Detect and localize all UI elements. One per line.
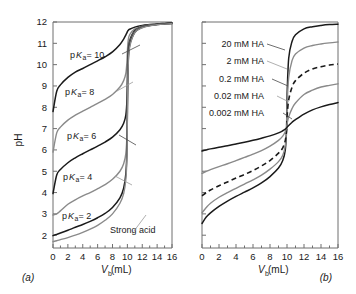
y-tick-label: 3 xyxy=(42,208,47,219)
x-tick-label: 14 xyxy=(316,251,327,262)
annotation-panel-a-4: pKa = 2 xyxy=(62,211,91,222)
x-tick-label: 10 xyxy=(122,251,133,262)
annotation-suffix: = 2 xyxy=(79,211,92,221)
y-tick-label: 9 xyxy=(42,80,47,91)
x-tick-label: 4 xyxy=(80,251,85,262)
annotation-panel-b-3: 0.02 mM HA xyxy=(214,91,264,101)
y-tick-label: 7 xyxy=(42,123,47,134)
panel-a-annotations: pKa = 10pKa = 8pKa = 6pKa = 4pKa = 2Stro… xyxy=(62,50,156,235)
titration-figure: 23456789101112 0246810121416 pH V b (mL)… xyxy=(0,0,356,294)
annotation-suffix: = 4 xyxy=(80,172,93,182)
x-tick-label: 4 xyxy=(233,251,238,262)
x-axis-title-b-unit: (mL) xyxy=(268,264,289,275)
x-tick-label: 10 xyxy=(282,251,293,262)
annotation-prefix: p xyxy=(63,172,68,182)
panel-a-y-ticklabels: 23456789101112 xyxy=(36,16,47,240)
y-tick-label: 10 xyxy=(36,59,47,70)
x-axis-title-a: V b (mL) xyxy=(101,264,132,277)
x-tick-label: 16 xyxy=(167,251,178,262)
x-tick-label: 2 xyxy=(216,251,221,262)
y-axis-title-a-text: pH xyxy=(13,134,24,147)
curve-pka-6 xyxy=(53,23,172,193)
leader-20mm xyxy=(267,44,285,50)
y-tick-label: 5 xyxy=(42,166,47,177)
panel-b: 0246810121416 V b (mL) (b) 20 mM HA2 mM … xyxy=(199,22,343,283)
leader-pka10 xyxy=(122,45,140,54)
x-tick-label: 12 xyxy=(137,251,148,262)
annotation-prefix: p xyxy=(65,87,70,97)
panel-b-annotations: 20 mM HA2 mM HA0.2 mM HA0.02 mM HA0.002 … xyxy=(209,39,264,118)
annotation-suffix: = 10 xyxy=(87,50,105,60)
y-tick-label: 2 xyxy=(42,230,47,241)
x-tick-label: 8 xyxy=(267,251,272,262)
panel-b-x-ticks xyxy=(202,244,338,248)
y-tick-label: 12 xyxy=(36,16,47,27)
x-tick-label: 14 xyxy=(152,251,163,262)
x-axis-title-b: V b (mL) xyxy=(258,264,289,277)
annotation-panel-a-5: Strong acid xyxy=(110,225,156,235)
annotation-panel-b-2: 0.2 mM HA xyxy=(219,74,264,84)
curve-pka-10 xyxy=(53,23,172,111)
curve-2-mm-ha xyxy=(202,42,338,213)
panel-a-label: (a) xyxy=(22,272,34,283)
panel-b-y-ticks xyxy=(202,22,206,235)
leader-pka4 xyxy=(115,176,132,185)
panel-b-x-ticklabels: 0246810121416 xyxy=(199,251,343,262)
annotation-prefix: p xyxy=(70,50,75,60)
annotation-panel-a-0: pKa = 10 xyxy=(70,50,104,61)
annotation-panel-b-4: 0.002 mM HA xyxy=(209,108,264,118)
y-tick-label: 6 xyxy=(42,144,47,155)
titration-chart-svg: 23456789101112 0246810121416 pH V b (mL)… xyxy=(0,0,356,294)
panel-b-curves xyxy=(202,24,338,223)
annotation-panel-b-1: 2 mM HA xyxy=(226,56,264,66)
x-tick-label: 6 xyxy=(250,251,255,262)
x-tick-label: 0 xyxy=(199,251,204,262)
annotation-panel-a-1: pKa = 8 xyxy=(65,87,94,98)
panel-a: 23456789101112 0246810121416 pH V b (mL)… xyxy=(13,16,177,283)
annotation-suffix: Strong acid xyxy=(110,225,156,235)
panel-b-frame xyxy=(202,22,338,248)
annotation-suffix: = 6 xyxy=(84,131,97,141)
y-tick-label: 8 xyxy=(42,102,47,113)
y-tick-label: 4 xyxy=(42,187,47,198)
panel-a-y-ticks xyxy=(53,22,57,235)
x-tick-label: 16 xyxy=(333,251,344,262)
annotation-prefix: p xyxy=(62,211,67,221)
annotation-panel-b-0: 20 mM HA xyxy=(221,39,264,49)
annotation-panel-a-3: pKa = 4 xyxy=(63,172,92,183)
x-tick-label: 6 xyxy=(95,251,100,262)
panel-a-x-ticks xyxy=(53,244,172,248)
x-tick-label: 2 xyxy=(65,251,70,262)
annotation-suffix: = 8 xyxy=(82,87,95,97)
x-axis-title-a-unit: (mL) xyxy=(111,264,132,275)
annotation-prefix: p xyxy=(67,131,72,141)
y-axis-title-a: pH xyxy=(13,134,24,147)
panel-a-x-ticklabels: 0246810121416 xyxy=(50,251,177,262)
x-tick-label: 12 xyxy=(299,251,310,262)
curve-20-mm-ha xyxy=(202,24,338,223)
panel-b-label: (b) xyxy=(320,272,332,283)
leader-pka8 xyxy=(117,82,133,91)
x-tick-label: 8 xyxy=(110,251,115,262)
leader-02mm xyxy=(272,79,288,86)
x-tick-label: 0 xyxy=(50,251,55,262)
y-tick-label: 11 xyxy=(37,38,47,49)
leader-2mm xyxy=(267,61,287,69)
annotation-panel-a-2: pKa = 6 xyxy=(67,131,96,142)
